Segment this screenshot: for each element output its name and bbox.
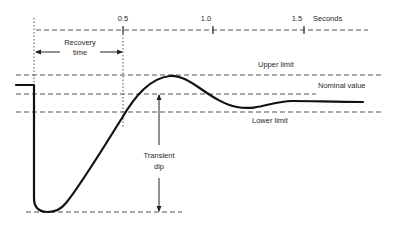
transient-dip-label-line2: dip: [154, 162, 164, 171]
transient-dip-label-line1: Transient: [144, 151, 176, 160]
time-axis-unit-label: Seconds: [313, 14, 342, 23]
time-tick-label: 0.5: [118, 14, 128, 23]
nominal-value-label: Nominal value: [318, 81, 366, 90]
time-axis: 0.5 1.0 1.5 Seconds: [36, 14, 368, 34]
time-tick-label: 1.0: [201, 14, 211, 23]
recovery-time-annotation: Recovery time: [36, 38, 122, 57]
recovery-time-label-line2: time: [73, 48, 87, 57]
recovery-time-label-line1: Recovery: [64, 38, 96, 47]
lower-limit-label: Lower limit: [252, 116, 289, 125]
response-curve: [16, 76, 363, 212]
transient-response-diagram: 0.5 1.0 1.5 Seconds Recovery time Upper …: [0, 0, 393, 225]
upper-limit-label: Upper limit: [258, 60, 295, 69]
time-tick-label: 1.5: [292, 14, 302, 23]
